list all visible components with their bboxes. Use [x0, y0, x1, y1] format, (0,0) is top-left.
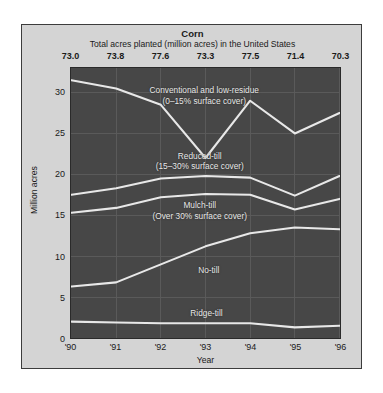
- series-sublabel-text: (Over 30% surface cover): [152, 211, 247, 222]
- top-axis-total-acres: 73.073.877.673.377.571.470.3: [22, 51, 363, 64]
- series-label-text: No-till: [198, 265, 219, 275]
- x-axis-tick: '96: [321, 342, 361, 352]
- chart-subtitle: Total acres planted (million acres) in t…: [22, 39, 363, 49]
- y-axis-tick: 30: [31, 87, 65, 97]
- top-axis-tick: 73.0: [51, 51, 91, 61]
- x-axis-tick: '94: [231, 342, 271, 352]
- series-label-text: Mulch-till: [183, 200, 216, 210]
- y-axis-label: Million acres: [29, 145, 39, 235]
- y-axis-tick: 25: [31, 128, 65, 138]
- series-label-no-till: No-till: [198, 265, 219, 276]
- x-axis-label: Year: [70, 355, 341, 365]
- series-label-text: Reduced-till: [178, 151, 222, 161]
- top-axis-tick: 70.3: [321, 51, 361, 61]
- y-axis-tick: 10: [31, 252, 65, 262]
- x-axis-tick: '92: [141, 342, 181, 352]
- series-label-mulch-till: Mulch-till(Over 30% surface cover): [152, 200, 247, 221]
- series-label-ridge-till: Ridge-till: [190, 308, 222, 319]
- x-axis-tick: '91: [96, 342, 136, 352]
- top-axis-tick: 77.6: [141, 51, 181, 61]
- series-label-conventional-and-low-residue: Conventional and low-residue(0–15% surfa…: [150, 85, 259, 106]
- series-label-text: Conventional and low-residue: [150, 85, 259, 95]
- series-label-text: Ridge-till: [190, 308, 222, 318]
- chart-title: Corn: [22, 28, 363, 39]
- series-label-reduced-till: Reduced-till(15–30% surface cover): [156, 151, 244, 172]
- plot-area: Ridge-tillNo-tillMulch-till(Over 30% sur…: [70, 67, 341, 339]
- series-sublabel-text: (15–30% surface cover): [156, 161, 244, 172]
- chart-figure: Corn Total acres planted (million acres)…: [0, 0, 383, 393]
- x-axis-tick: '95: [276, 342, 316, 352]
- top-axis-tick: 73.8: [96, 51, 136, 61]
- x-axis-tick: '93: [186, 342, 226, 352]
- series-sublabel-text: (0–15% surface cover): [150, 96, 259, 107]
- x-axis-ticks: '90'91'92'93'94'95'96: [70, 342, 341, 356]
- top-axis-tick: 77.5: [231, 51, 271, 61]
- y-axis-tick: 5: [31, 293, 65, 303]
- top-axis-tick: 73.3: [186, 51, 226, 61]
- chart-panel: Corn Total acres planted (million acres)…: [21, 24, 362, 369]
- x-axis-tick: '90: [51, 342, 91, 352]
- top-axis-tick: 71.4: [276, 51, 316, 61]
